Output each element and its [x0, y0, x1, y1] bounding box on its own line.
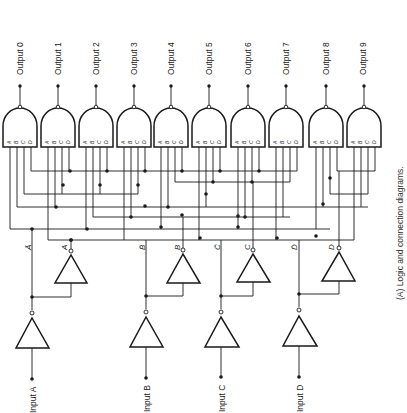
svg-text:A: A [82, 140, 88, 145]
output-7-label: Output 7 [281, 42, 291, 75]
nand-gate-1 [41, 84, 75, 147]
input-labels: Input A Input B Input C Input D [28, 385, 305, 413]
signal-buses [10, 171, 375, 240]
output-9-label: Output 9 [358, 42, 368, 75]
c-label: C [243, 244, 252, 250]
input-a-label: Input A [28, 386, 38, 413]
svg-text:D: D [333, 140, 339, 144]
output-0-label: Output 0 [15, 42, 25, 75]
input-a-stage [16, 229, 87, 381]
output-2-label: Output 2 [91, 42, 101, 75]
svg-text:C: C [248, 140, 254, 144]
d-bar-label: D̄ [290, 244, 299, 250]
inverter-stages [16, 171, 355, 381]
svg-text:C: C [209, 140, 215, 144]
nand-gate-4 [154, 84, 188, 147]
svg-text:A: A [44, 140, 50, 145]
output-3-label: Output 3 [129, 42, 139, 75]
svg-text:A: A [157, 140, 163, 145]
svg-text:D: D [178, 140, 184, 144]
input-c-stage [205, 182, 270, 379]
nand-gate-7 [269, 84, 303, 147]
d-label: D [327, 244, 336, 250]
svg-text:C: C [171, 140, 177, 144]
svg-text:D: D [216, 140, 222, 144]
input-b-label: Input B [142, 385, 152, 412]
output-6-label: Output 6 [243, 42, 253, 75]
svg-text:C: C [134, 140, 140, 144]
output-1-label: Output 1 [53, 42, 63, 75]
svg-text:A: A [234, 140, 240, 145]
svg-text:D: D [293, 140, 299, 144]
svg-text:A: A [312, 140, 318, 145]
nand-gate-6 [231, 84, 265, 147]
svg-text:D: D [371, 140, 377, 144]
svg-text:A: A [350, 140, 356, 145]
nand-gate-3 [117, 84, 151, 147]
input-d-label: Input D [295, 385, 305, 412]
nand-gate-0 [3, 84, 37, 147]
b-label: B [173, 244, 182, 250]
nand-gate-9 [347, 84, 381, 147]
bcd-decoder-diagram: Output 0 Output 1 Output 2 Output 3 Outp… [0, 0, 407, 413]
svg-text:A: A [6, 140, 12, 145]
svg-text:D: D [255, 140, 261, 144]
input-c-label: Input C [217, 385, 227, 412]
svg-text:C: C [286, 140, 292, 144]
output-4-label: Output 4 [166, 42, 176, 75]
output-5-label: Output 5 [204, 42, 214, 75]
output-8-label: Output 8 [321, 42, 331, 75]
svg-text:D: D [141, 140, 147, 144]
junction-dots [30, 169, 332, 242]
svg-text:A: A [272, 140, 278, 145]
svg-text:D: D [65, 140, 71, 144]
nand-gates [3, 84, 381, 147]
a-label: A [60, 245, 69, 251]
input-d-stage [283, 171, 355, 379]
nand-gate-8 [309, 84, 343, 147]
svg-text:C: C [20, 140, 26, 144]
figure-caption: (A) Logic and connection diagrams. [395, 166, 405, 300]
svg-text:C: C [326, 140, 332, 144]
svg-text:A: A [120, 140, 126, 145]
nand-gate-5 [192, 84, 226, 147]
svg-text:C: C [96, 140, 102, 144]
output-labels: Output 0 Output 1 Output 2 Output 3 Outp… [15, 42, 368, 75]
svg-text:A: A [195, 140, 201, 145]
gate-input-wires [10, 147, 375, 240]
nand-gate-2 [79, 84, 113, 147]
svg-text:C: C [58, 140, 64, 144]
svg-text:D: D [27, 140, 33, 144]
svg-text:C: C [364, 140, 370, 144]
input-b-stage [130, 217, 200, 380]
svg-text:D: D [103, 140, 109, 144]
